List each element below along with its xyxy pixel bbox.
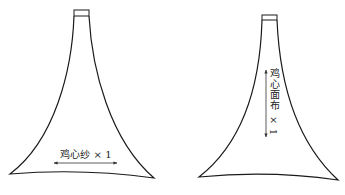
pattern-diagram <box>0 0 345 195</box>
piece-1-waistband <box>74 10 89 16</box>
piece-1-label: 鸡心纱 × 1 <box>60 146 112 161</box>
piece-2-waistband <box>262 15 277 20</box>
piece-2-label: 鸡心面布 × 1 <box>266 68 281 136</box>
